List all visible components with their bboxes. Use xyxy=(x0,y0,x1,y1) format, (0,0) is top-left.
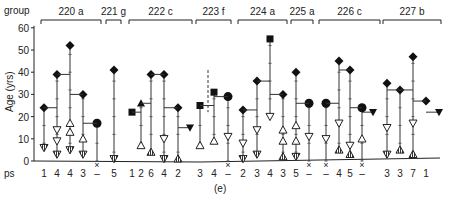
group-226-c: 226 c×–45×– xyxy=(319,6,380,179)
y-tick-label: 0 xyxy=(23,156,29,167)
diamond-marker xyxy=(110,65,119,74)
group-bracket xyxy=(41,20,101,24)
ps-value: 5 xyxy=(347,168,353,179)
triangle-down-open-marker xyxy=(383,125,391,132)
group-224-a: 224 a2343 xyxy=(238,6,288,179)
diamond-marker xyxy=(335,57,344,66)
triangle-up-open-marker xyxy=(292,121,300,128)
y-tick-label: 10 xyxy=(18,134,30,145)
triangle-up-open-marker xyxy=(137,141,145,148)
ps-value: 3 xyxy=(397,168,403,179)
group-label: 225 a xyxy=(289,6,314,17)
square-marker xyxy=(267,35,274,42)
group-227-b: 227 b3371 xyxy=(383,6,444,179)
ps-value: 4 xyxy=(67,168,73,179)
ps-value: 4 xyxy=(211,168,217,179)
group-label: 226 c xyxy=(337,6,361,17)
figure-caption: (e) xyxy=(214,183,226,194)
ps-value: 3 xyxy=(384,168,390,179)
y-tick-label: 60 xyxy=(18,23,30,34)
ps-value: 1 xyxy=(423,168,429,179)
triangle-up-open-marker xyxy=(292,137,300,144)
y-tick-label: 30 xyxy=(18,89,30,100)
triangle-down-open-marker xyxy=(239,140,247,147)
group-label: 222 c xyxy=(148,6,172,17)
triangle-down-open-marker xyxy=(409,120,417,127)
triangle-up-hatched-marker xyxy=(409,150,417,157)
triangle-down-open-marker xyxy=(53,138,61,145)
triangle-down-hatched-marker xyxy=(79,151,87,158)
ps-value: 2 xyxy=(175,168,181,179)
diamond-marker xyxy=(66,41,75,50)
triangle-up-open-marker xyxy=(279,126,287,133)
triangle-up-open-marker xyxy=(66,119,74,126)
triangle-down-hatched-marker xyxy=(383,151,391,158)
ps-value: 4 xyxy=(54,168,60,179)
y-axis-label: Age (yrs) xyxy=(4,71,15,112)
triangle-up-open-marker xyxy=(358,135,366,142)
triangle-down-open-marker xyxy=(322,136,330,143)
triangle-up-hatched-marker xyxy=(396,146,404,153)
ps-value: 4 xyxy=(267,168,273,179)
group-bracket xyxy=(319,20,380,24)
triangle-down-hatched-marker xyxy=(292,153,300,160)
ps-value: 1 xyxy=(41,168,47,179)
triangle-up-hatched-marker xyxy=(279,153,287,160)
group-bracket xyxy=(106,20,121,24)
triangle-down-open-marker xyxy=(305,133,313,140)
group-220-a: 220 a1443×– xyxy=(40,6,102,179)
ps-value: 3 xyxy=(80,168,86,179)
square-marker xyxy=(211,89,218,96)
ps-value: 3 xyxy=(280,168,286,179)
triangle-down-open-marker xyxy=(53,127,61,134)
triangle-up-hatched-marker xyxy=(147,148,155,155)
triangle-up-open-marker xyxy=(66,128,74,135)
triangle-down-open-marker xyxy=(224,133,232,140)
group-bracket xyxy=(383,20,441,24)
group-222-c: 222 c12642 xyxy=(129,6,195,179)
triangle-down-open-marker xyxy=(266,113,274,120)
triangle-down-hatched-marker xyxy=(253,151,261,158)
group-label: 227 b xyxy=(399,6,424,17)
group-header-label: group xyxy=(4,5,30,16)
diamond-marker xyxy=(292,68,301,77)
ps-value: – xyxy=(359,168,365,179)
group-223-f: 223 f34×– xyxy=(196,6,233,179)
triangle-up-open-marker xyxy=(279,137,287,144)
triangle-up-open-marker xyxy=(79,135,87,142)
ps-value: – xyxy=(323,168,329,179)
lineage-age-chart: 0102030405060 220 a1443×–221 g5222 c1264… xyxy=(0,0,449,201)
ps-value: 1 xyxy=(129,168,135,179)
ps-value: – xyxy=(94,168,100,179)
group-bracket xyxy=(196,20,231,24)
y-tick-label: 20 xyxy=(18,112,30,123)
triangle-down-open-marker xyxy=(335,120,343,127)
group-label: 221 g xyxy=(101,6,126,17)
plot-area: 220 a1443×–221 g5222 c12642223 f34×–224 … xyxy=(40,6,444,179)
diamond-marker xyxy=(383,79,392,88)
ps-value: 2 xyxy=(138,168,144,179)
ps-value: 7 xyxy=(410,168,416,179)
triangle-up-hatched-marker xyxy=(335,146,343,153)
triangle-down-hatched-marker xyxy=(53,151,61,158)
triangle-down-open-marker xyxy=(346,142,354,149)
group-label: 224 a xyxy=(250,6,275,17)
triangle-down-open-marker xyxy=(160,136,168,143)
group-bracket xyxy=(291,20,313,24)
ps-value: 5 xyxy=(293,168,299,179)
ps-value: 4 xyxy=(336,168,342,179)
group-225-a: 225 a5×– xyxy=(289,6,314,179)
triangle-up-open-marker xyxy=(210,137,218,144)
ps-value: – xyxy=(306,168,312,179)
ps-value: 2 xyxy=(240,168,246,179)
group-label: 223 f xyxy=(202,6,224,17)
group-bracket xyxy=(129,20,192,24)
triangle-down-open-marker xyxy=(253,127,261,134)
triangle-up-open-marker xyxy=(196,141,204,148)
y-tick-label: 50 xyxy=(18,45,30,56)
triangle-up-hatched-marker xyxy=(346,150,354,157)
triangle-up-hatched-marker xyxy=(174,155,182,162)
ps-value: 4 xyxy=(161,168,167,179)
ps-value: 5 xyxy=(111,168,117,179)
group-label: 220 a xyxy=(58,6,83,17)
